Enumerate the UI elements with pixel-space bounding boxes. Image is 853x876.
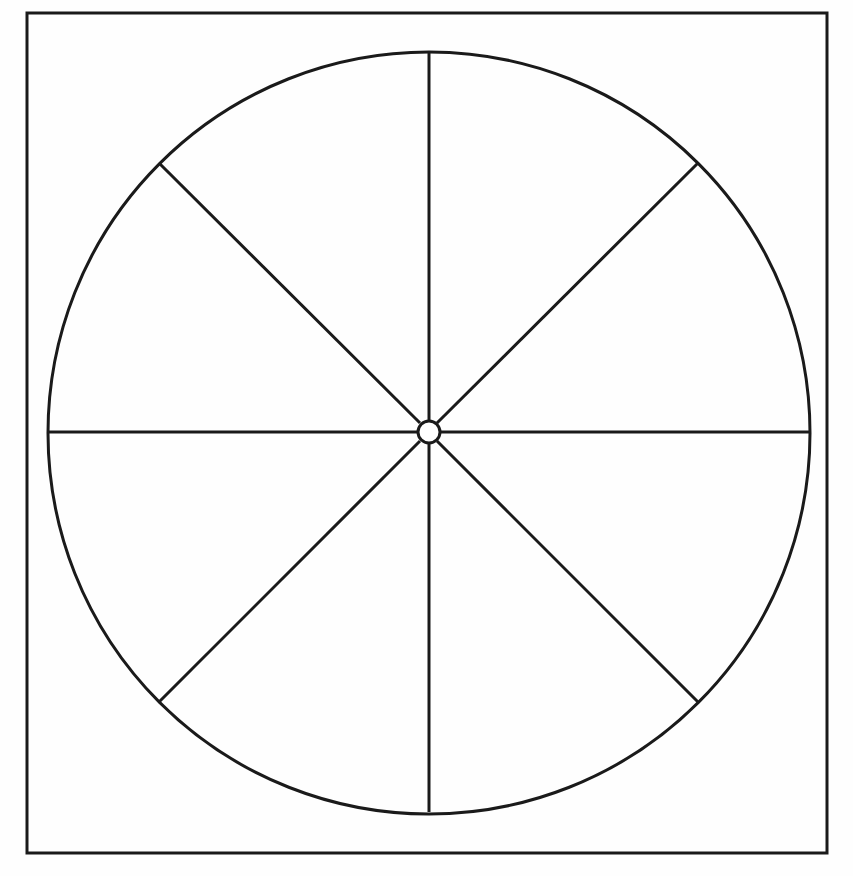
center-hub-circle	[418, 421, 440, 443]
figure-root	[0, 0, 853, 876]
wheel-diagram	[0, 0, 853, 876]
